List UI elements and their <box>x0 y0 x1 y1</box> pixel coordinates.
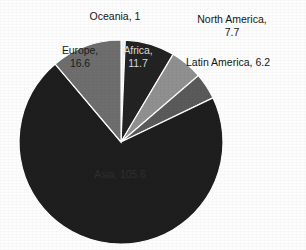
slice-label-north-america-line1: North America, <box>174 13 290 26</box>
slice-label-africa: Africa, 11.7 <box>110 44 166 69</box>
slice-label-oceania-line1: Oceania, 1 <box>72 10 158 23</box>
slice-label-asia-line1: Asia, 105.6 <box>72 168 168 181</box>
slice-label-latin-america: Latin America, 6.2 <box>186 56 306 69</box>
slice-label-europe-line1: Europe, <box>44 44 116 57</box>
slice-label-africa-line1: Africa, <box>110 44 166 57</box>
slice-label-asia: Asia, 105.6 <box>72 168 168 181</box>
slice-label-north-america-line2: 7.7 <box>174 26 290 39</box>
slice-label-africa-line2: 11.7 <box>110 57 166 70</box>
slice-label-europe-line2: 16.6 <box>44 57 116 70</box>
pie-chart: Oceania, 1 North America, 7.7 Latin Amer… <box>0 0 306 250</box>
slice-label-europe: Europe, 16.6 <box>44 44 116 69</box>
slice-label-oceania: Oceania, 1 <box>72 10 158 23</box>
slice-label-north-america: North America, 7.7 <box>174 13 290 39</box>
pie-slices-group <box>19 40 223 244</box>
slice-label-latin-america-line1: Latin America, 6.2 <box>186 56 306 69</box>
